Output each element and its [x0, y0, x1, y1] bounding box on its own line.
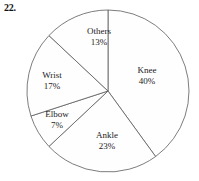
pie-label-name: Elbow: [45, 109, 69, 120]
pie-chart-figure: 22. Knee40%Ankle23%Elbow7%Wrist17%Others…: [0, 0, 199, 181]
pie-label-percent: 17%: [42, 80, 62, 91]
pie-label-others: Others13%: [87, 26, 111, 47]
pie-label-name: Wrist: [42, 70, 62, 81]
pie-label-percent: 23%: [96, 140, 118, 151]
pie-label-name: Ankle: [96, 130, 118, 141]
pie-label-name: Others: [87, 26, 111, 37]
pie-label-percent: 13%: [87, 36, 111, 47]
pie-label-elbow: Elbow7%: [45, 109, 69, 130]
pie-label-ankle: Ankle23%: [96, 130, 118, 151]
pie-label-knee: Knee40%: [138, 65, 157, 86]
pie-label-name: Knee: [138, 65, 157, 76]
pie-label-percent: 7%: [45, 119, 69, 130]
pie-label-wrist: Wrist17%: [42, 70, 62, 91]
pie-label-percent: 40%: [138, 75, 157, 86]
